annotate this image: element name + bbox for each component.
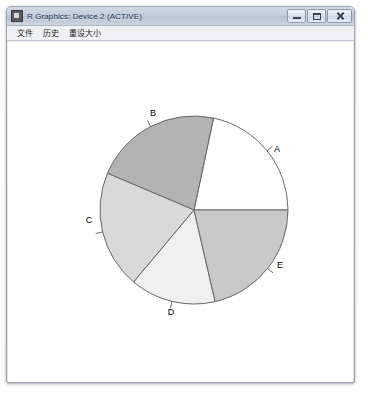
menu-item-history[interactable]: 历史	[38, 27, 64, 40]
pie-slices	[100, 116, 288, 304]
menu-item-resize[interactable]: 重设大小	[64, 27, 106, 40]
minimize-button[interactable]	[287, 9, 306, 23]
pie-tick-e	[268, 269, 273, 273]
close-button[interactable]	[327, 9, 352, 23]
pie-tick-b	[147, 120, 150, 126]
window-titlebar[interactable]: R Graphics: Device 2 (ACTIVE)	[7, 7, 354, 26]
menubar: 文件 历史 重设大小	[7, 26, 354, 41]
pie-label-d: D	[168, 307, 175, 317]
pie-label-c: C	[86, 215, 93, 225]
desktop-background: R Graphics: Device 2 (ACTIVE) 文件 历史 重设大小	[0, 0, 368, 402]
pie-tick-a	[267, 146, 272, 150]
pie-chart: ABCDE	[8, 43, 353, 382]
pie-tick-c	[96, 232, 103, 234]
menu-item-file[interactable]: 文件	[12, 27, 38, 40]
window-title: R Graphics: Device 2 (ACTIVE)	[27, 12, 287, 21]
maximize-icon	[313, 13, 321, 20]
pie-label-b: B	[150, 108, 156, 118]
pie-label-e: E	[277, 260, 283, 270]
r-graphics-window: R Graphics: Device 2 (ACTIVE) 文件 历史 重设大小	[6, 6, 355, 383]
minimize-icon	[293, 17, 301, 19]
maximize-button[interactable]	[307, 9, 326, 23]
window-controls	[287, 9, 352, 23]
pie-label-a: A	[274, 144, 280, 154]
r-graphics-icon	[11, 10, 23, 22]
plot-canvas: ABCDE	[8, 42, 353, 382]
